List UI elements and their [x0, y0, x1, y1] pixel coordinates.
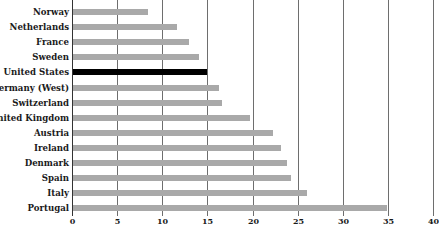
bar-denmark [73, 160, 287, 166]
gridline [162, 0, 163, 216]
gridline [433, 0, 434, 216]
bar-germany-west [73, 85, 219, 91]
bar-portugal [73, 205, 387, 211]
y-axis-line [72, 0, 73, 216]
category-label: Sweden [32, 52, 69, 62]
x-tick-label: 40 [428, 217, 439, 226]
bar-ireland [73, 145, 281, 151]
horizontal-bar-chart: 0510152025303540NorwayNetherlandsFranceS… [0, 0, 439, 226]
x-tick-label: 30 [338, 217, 349, 226]
gridline [117, 0, 118, 216]
bar-spain [73, 175, 291, 181]
bar-norway [73, 9, 148, 15]
x-tick-label: 20 [248, 217, 259, 226]
bar-austria [73, 130, 273, 136]
category-label: Denmark [25, 158, 69, 168]
bar-sweden [73, 54, 199, 60]
gridline [298, 0, 299, 216]
category-label: France [36, 37, 69, 47]
category-label: United Kingdom [0, 113, 69, 123]
category-label: Spain [42, 173, 69, 183]
category-label: Germany (West) [0, 83, 69, 93]
x-tick-label: 25 [293, 217, 304, 226]
bar-united-kingdom [73, 115, 250, 121]
bar-netherlands [73, 24, 177, 30]
gridline [388, 0, 389, 216]
gridline [253, 0, 254, 216]
category-label: Ireland [34, 143, 69, 153]
x-tick-label: 10 [157, 217, 168, 226]
x-tick-label: 15 [202, 217, 213, 226]
category-label: Norway [33, 7, 69, 17]
category-label: Austria [34, 128, 69, 138]
gridline [343, 0, 344, 216]
bar-france [73, 39, 189, 45]
bar-united-states [73, 69, 207, 75]
x-tick-label: 35 [383, 217, 394, 226]
category-label: Netherlands [10, 22, 69, 32]
category-label: Italy [47, 188, 69, 198]
x-tick-label: 5 [115, 217, 121, 226]
bar-switzerland [73, 100, 222, 106]
category-label: Portugal [27, 203, 69, 213]
gridline [207, 0, 208, 216]
x-tick-label: 0 [70, 217, 76, 226]
category-label: United States [4, 67, 69, 77]
bar-italy [73, 190, 307, 196]
category-label: Switzerland [12, 98, 69, 108]
